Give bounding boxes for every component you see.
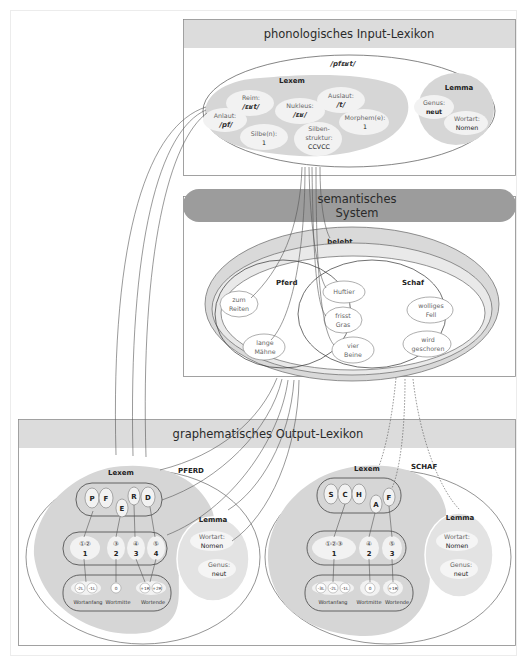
wortart-label: Wortart: xyxy=(454,115,480,122)
schaf-zone-wortende: Wortende xyxy=(385,599,409,605)
morpheme-value: 1 xyxy=(363,123,367,130)
grapheme-1-number: 1 xyxy=(83,550,88,558)
schaf-grapheme-3-number: 3 xyxy=(390,550,395,558)
schaf-genus-label: Genus: xyxy=(450,561,472,568)
silbenstruktur-label-2: struktur: xyxy=(305,134,332,141)
schaf-grapheme-1-number: 1 xyxy=(332,550,337,558)
schaf-grapheme-1: ①②③ xyxy=(325,540,343,548)
feature-wolliges-fell-1: wolliges xyxy=(418,302,443,310)
wortart-value: Nomen xyxy=(456,124,479,131)
schaf-pos-zero: 0 xyxy=(369,586,372,591)
feature-vier-beine xyxy=(332,337,374,363)
feature-frisst-gras-1: frisst xyxy=(335,312,351,319)
bubble-silben xyxy=(240,124,288,150)
anlaut-value: /pf/ xyxy=(218,121,234,129)
silben-value: 1 xyxy=(262,139,266,146)
auslaut-label: Auslaut: xyxy=(328,92,354,99)
letter-e: E xyxy=(120,505,125,513)
letter-p: P xyxy=(89,495,94,503)
genus-value: neut xyxy=(426,108,442,115)
silbenstruktur-label-1: Silben- xyxy=(308,125,330,132)
pferd-word: PFERD xyxy=(178,467,204,475)
graphematic-output-lexicon: graphematisches Output-Lexikon Lexem PFE… xyxy=(19,420,516,646)
letter-s: S xyxy=(328,491,333,499)
schaf-zone-wortanfang: Wortanfang xyxy=(318,599,347,606)
zone-wortmitte: Wortmitte xyxy=(106,599,131,605)
schaf-genus-value: neut xyxy=(454,570,469,577)
silben-label: Silbe(n): xyxy=(251,130,277,137)
schaf-label: Schaf xyxy=(402,279,425,287)
feature-wolliges-fell-2: Fell xyxy=(426,311,437,318)
schaf-pos-plus1: +1R xyxy=(388,586,397,591)
pferd-lexem-label: Lexem xyxy=(108,469,134,477)
pferd-wortart-label: Wortart: xyxy=(199,533,225,540)
letter-d: D xyxy=(145,494,151,502)
semantic-system: semantisches System belebt Säugetier Pfe… xyxy=(183,189,516,381)
letter-r: R xyxy=(131,493,137,501)
feature-huftier-1: Huftier xyxy=(333,288,355,295)
phonological-lemma-label: Lemma xyxy=(445,84,474,92)
feature-vier-beine-2: Beine xyxy=(344,351,362,358)
pos-zero: 0 xyxy=(115,586,118,591)
anlaut-label: Anlaut: xyxy=(214,112,237,119)
pos-minus2: -2L xyxy=(77,586,84,591)
grapheme-2-number: 2 xyxy=(114,550,119,558)
feature-zum-reiten-1: zum xyxy=(232,296,245,303)
phonological-title: phonologisches Input-Lexikon xyxy=(264,27,435,41)
schaf-pos-minus1: -1L xyxy=(342,586,349,591)
semantic-title-line2: System xyxy=(336,206,379,220)
grapheme-4: ⑤ xyxy=(153,540,159,548)
schaf-zone-wortmitte: Wortmitte xyxy=(357,599,382,605)
schaf-grapheme-2-number: 2 xyxy=(367,550,372,558)
feature-vier-beine-1: vier xyxy=(347,342,359,349)
genus-label: Genus: xyxy=(423,99,445,106)
letter-h: H xyxy=(356,491,362,499)
letter-a: A xyxy=(373,501,379,509)
feature-lange-maehne xyxy=(243,334,285,360)
grapheme-3: ④ xyxy=(133,540,139,548)
feature-zum-reiten xyxy=(220,291,258,317)
feature-wird-geschoren-1: wird xyxy=(421,336,434,343)
schaf-grapheme-2: ④ xyxy=(366,540,372,548)
zone-wortanfang: Wortanfang xyxy=(73,599,102,606)
schaf-pos-minus2: -2L xyxy=(330,586,337,591)
schaf-pos-minus3: -3L xyxy=(318,586,325,591)
auslaut-value: /t/ xyxy=(336,101,347,109)
feature-wird-geschoren-2: geschoren xyxy=(412,345,445,353)
reim-label: Reim: xyxy=(242,94,260,101)
pos-plus1: +1R xyxy=(140,586,149,591)
phonological-input-lexicon: phonologisches Input-Lexikon /pfɛʁt/ Lex… xyxy=(184,20,516,176)
reim-value: /ɛʁt/ xyxy=(242,103,261,111)
letter-f: F xyxy=(387,494,392,502)
pferd-wortart-value: Nomen xyxy=(201,542,224,549)
graphematic-title: graphematisches Output-Lexikon xyxy=(173,427,364,441)
nukleus-label: Nukleus: xyxy=(286,102,313,109)
letter-f: F xyxy=(104,495,109,503)
feature-zum-reiten-2: Reiten xyxy=(229,305,249,312)
schaf-lemma-label: Lemma xyxy=(446,514,475,522)
grapheme-4-number: 4 xyxy=(154,550,159,558)
lexicon-diagram: phonologisches Input-Lexikon /pfɛʁt/ Lex… xyxy=(0,0,527,667)
grapheme-2: ③ xyxy=(113,540,119,548)
feature-lange-maehne-2: Mähne xyxy=(254,348,275,355)
feature-frisst-gras xyxy=(324,307,362,333)
silbenstruktur-value: CCVCC xyxy=(308,143,330,150)
pferd-genus-label: Genus: xyxy=(208,561,230,568)
pferd-genus-value: neut xyxy=(212,570,227,577)
feature-wolliges-fell xyxy=(407,297,453,323)
zone-wortende: Wortende xyxy=(141,599,165,605)
semantic-title-line1: semantisches xyxy=(318,192,397,206)
phonological-lexem-label: Lexem xyxy=(279,77,305,85)
pos-minus1: -1L xyxy=(89,586,96,591)
pos-plus2: +2R xyxy=(152,586,161,591)
pferd-lemma-label: Lemma xyxy=(199,516,228,524)
morpheme-label: Morphem(e): xyxy=(345,114,386,122)
grapheme-1: ①② xyxy=(79,540,91,548)
schaf-lexem-label: Lexem xyxy=(354,465,380,473)
schaf-grapheme-3: ⑤ xyxy=(389,540,395,548)
letter-c: C xyxy=(342,491,347,499)
schaf-lemma-area xyxy=(425,513,493,597)
grapheme-3-number: 3 xyxy=(134,550,139,558)
bubble-morpheme xyxy=(339,109,389,135)
feature-frisst-gras-2: Gras xyxy=(336,321,351,328)
